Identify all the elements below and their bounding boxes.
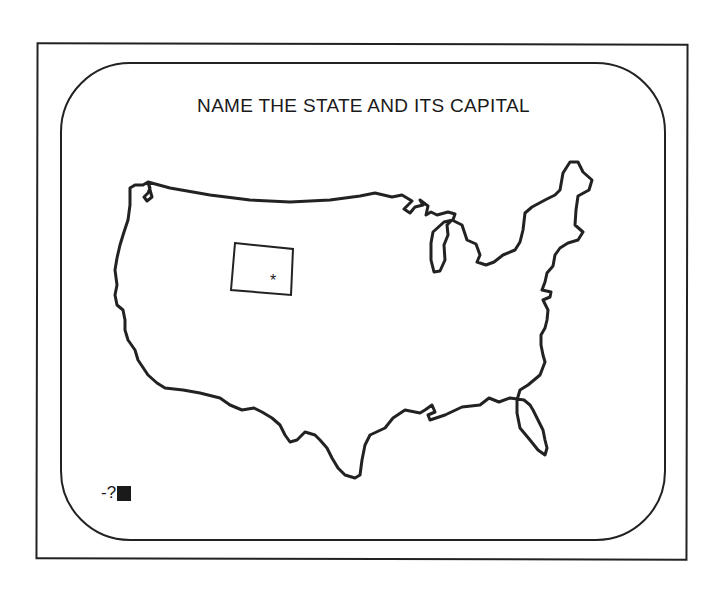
- text-cursor: [117, 486, 131, 501]
- capital-marker: *: [270, 272, 276, 290]
- us-outline-map: [0, 0, 727, 597]
- answer-prompt[interactable]: -?: [101, 483, 131, 503]
- us-outline: [115, 162, 592, 478]
- state-outline: [231, 243, 293, 295]
- prompt-text: -?: [101, 483, 116, 503]
